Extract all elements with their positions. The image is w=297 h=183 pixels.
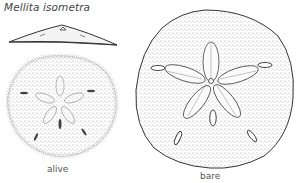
alive-label: alive xyxy=(47,164,68,174)
bare-label: bare xyxy=(200,171,220,181)
bare-specimen-drawing xyxy=(136,10,294,168)
side-profile-drawing xyxy=(9,25,117,45)
sand-dollar-illustrations xyxy=(0,0,297,183)
alive-specimen-drawing xyxy=(8,56,117,156)
